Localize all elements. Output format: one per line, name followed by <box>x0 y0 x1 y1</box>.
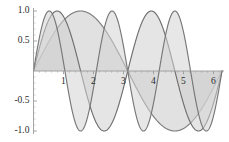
x-tick-label-4: 5 <box>181 76 186 86</box>
y-tick-label-0: -1.0 <box>14 125 29 135</box>
y-tick-label-2: 0.5 <box>18 35 30 45</box>
y-tick-label-1: -0.5 <box>14 95 29 105</box>
sine-plot-figure: -1.0-0.50.51.0123456 <box>0 0 229 142</box>
x-tick-label-3: 4 <box>151 76 156 86</box>
x-tick-label-5: 6 <box>211 76 216 86</box>
y-tick-label-3: 1.0 <box>18 5 30 15</box>
x-tick-label-0: 1 <box>61 76 66 86</box>
chart-canvas <box>0 0 229 142</box>
x-tick-label-1: 2 <box>91 76 96 86</box>
x-tick-label-2: 3 <box>121 76 126 86</box>
